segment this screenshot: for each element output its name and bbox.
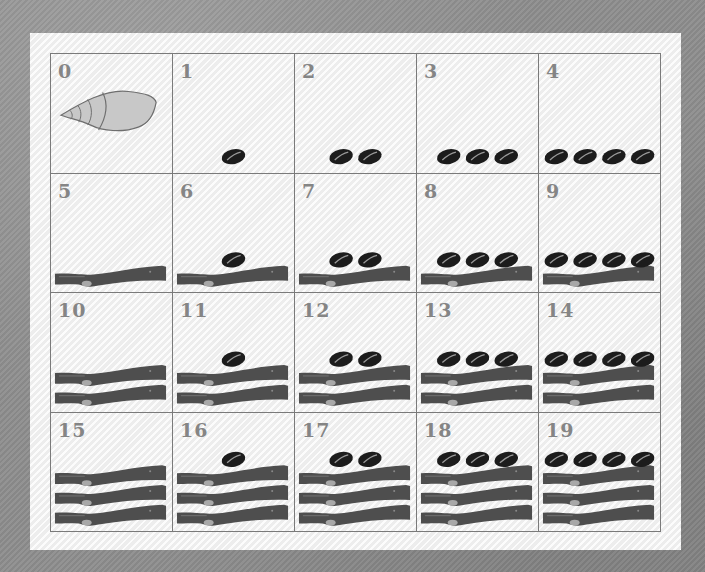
cowrie-dot-icon xyxy=(543,449,569,468)
maya-numeral-glyph xyxy=(539,54,660,173)
shell-icon xyxy=(51,54,172,173)
cowrie-dot-icon xyxy=(220,147,246,166)
stick-bar-icon xyxy=(421,465,532,486)
maya-numeral-glyph xyxy=(51,293,172,412)
cowrie-dot-icon xyxy=(464,349,490,368)
cowrie-dot-icon xyxy=(357,449,383,468)
maya-numeral-glyph xyxy=(417,413,538,532)
cowrie-dot-icon xyxy=(220,449,246,468)
numeral-cell-9: 9 xyxy=(539,174,661,294)
maya-numeral-glyph xyxy=(51,413,172,532)
cowrie-dot-icon xyxy=(543,349,569,368)
numeral-cell-4: 4 xyxy=(539,54,661,174)
cowrie-dot-icon xyxy=(572,250,598,269)
stick-bar-icon xyxy=(543,465,654,486)
stick-bar-icon xyxy=(299,504,410,525)
maya-numeral-glyph xyxy=(295,54,416,173)
cowrie-dot-icon xyxy=(543,250,569,269)
maya-numeral-glyph xyxy=(51,174,172,293)
cowrie-dot-icon xyxy=(436,349,462,368)
cowrie-dot-icon xyxy=(601,349,627,368)
stick-bar-icon xyxy=(543,385,654,406)
cowrie-dot-icon xyxy=(357,147,383,166)
maya-numeral-glyph xyxy=(539,293,660,412)
numeral-cell-13: 13 xyxy=(417,293,539,413)
cowrie-dot-icon xyxy=(357,349,383,368)
numeral-cell-7: 7 xyxy=(295,174,417,294)
maya-numeral-glyph xyxy=(295,293,416,412)
stick-bar-icon xyxy=(543,504,654,525)
cowrie-dot-icon xyxy=(357,250,383,269)
cowrie-dot-icon xyxy=(436,250,462,269)
maya-numeral-glyph xyxy=(295,413,416,532)
stick-bar-icon xyxy=(55,365,166,386)
maya-numeral-glyph xyxy=(173,54,294,173)
cowrie-dot-icon xyxy=(328,449,354,468)
numeral-cell-10: 10 xyxy=(51,293,173,413)
stick-bar-icon xyxy=(177,465,288,486)
numeral-cell-2: 2 xyxy=(295,54,417,174)
cowrie-dot-icon xyxy=(328,250,354,269)
stick-bar-icon xyxy=(421,504,532,525)
stick-bar-icon xyxy=(299,485,410,506)
maya-numeral-glyph xyxy=(539,174,660,293)
cowrie-dot-icon xyxy=(493,147,519,166)
numeral-cell-15: 15 xyxy=(51,413,173,533)
cowrie-dot-icon xyxy=(436,147,462,166)
stick-bar-icon xyxy=(299,365,410,386)
maya-numeral-glyph xyxy=(417,54,538,173)
stick-bar-icon xyxy=(543,265,654,286)
stick-bar-icon xyxy=(421,265,532,286)
stick-bar-icon xyxy=(177,504,288,525)
numeral-cell-12: 12 xyxy=(295,293,417,413)
stick-bar-icon xyxy=(55,265,166,286)
stick-bar-icon xyxy=(299,385,410,406)
stick-bar-icon xyxy=(177,485,288,506)
numeral-cell-5: 5 xyxy=(51,174,173,294)
maya-numeral-glyph xyxy=(417,174,538,293)
maya-numeral-glyph xyxy=(417,293,538,412)
stick-bar-icon xyxy=(299,265,410,286)
numeral-cell-8: 8 xyxy=(417,174,539,294)
numeral-cell-19: 19 xyxy=(539,413,661,533)
cowrie-dot-icon xyxy=(464,147,490,166)
cowrie-dot-icon xyxy=(572,449,598,468)
cowrie-dot-icon xyxy=(629,147,655,166)
maya-numeral-glyph xyxy=(173,293,294,412)
numeral-cell-6: 6 xyxy=(173,174,295,294)
numeral-cell-14: 14 xyxy=(539,293,661,413)
cowrie-dot-icon xyxy=(328,147,354,166)
numeral-cell-3: 3 xyxy=(417,54,539,174)
stick-bar-icon xyxy=(177,385,288,406)
maya-numeral-glyph xyxy=(173,174,294,293)
maya-numeral-glyph xyxy=(539,413,660,532)
cowrie-dot-icon xyxy=(464,449,490,468)
cowrie-dot-icon xyxy=(436,449,462,468)
stick-bar-icon xyxy=(543,365,654,386)
stick-bar-icon xyxy=(543,485,654,506)
cowrie-dot-icon xyxy=(543,147,569,166)
maya-numeral-glyph xyxy=(173,413,294,532)
stick-bar-icon xyxy=(421,485,532,506)
numeral-cell-16: 16 xyxy=(173,413,295,533)
stick-bar-icon xyxy=(55,504,166,525)
numeral-grid: 0 1 2 3 xyxy=(50,53,661,532)
stick-bar-icon xyxy=(177,265,288,286)
numeral-cell-11: 11 xyxy=(173,293,295,413)
cowrie-dot-icon xyxy=(601,250,627,269)
stick-bar-icon xyxy=(55,465,166,486)
stick-bar-icon xyxy=(299,465,410,486)
stick-bar-icon xyxy=(177,365,288,386)
cowrie-dot-icon xyxy=(601,449,627,468)
numeral-cell-1: 1 xyxy=(173,54,295,174)
cowrie-dot-icon xyxy=(464,250,490,269)
cowrie-dot-icon xyxy=(572,147,598,166)
cowrie-dot-icon xyxy=(220,349,246,368)
numeral-cell-0: 0 xyxy=(51,54,173,174)
stick-bar-icon xyxy=(421,385,532,406)
cowrie-dot-icon xyxy=(220,250,246,269)
stick-bar-icon xyxy=(421,365,532,386)
cowrie-dot-icon xyxy=(572,349,598,368)
stick-bar-icon xyxy=(55,485,166,506)
numeral-chart-panel: 0 1 2 3 xyxy=(30,33,681,550)
